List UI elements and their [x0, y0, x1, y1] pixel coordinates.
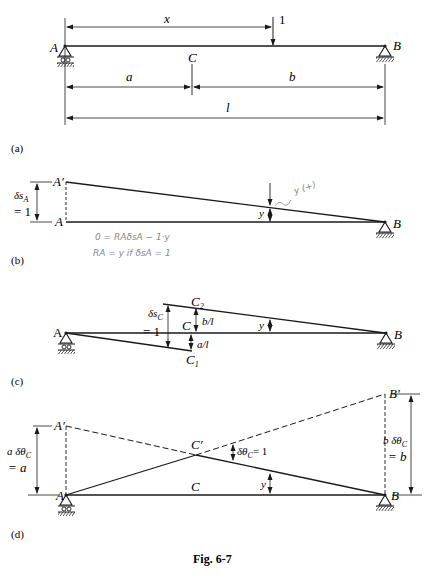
panel-a: A B C 1 x a b l (a)	[11, 11, 401, 155]
label-b: B	[394, 327, 402, 342]
label-a: A	[55, 488, 64, 503]
label-c: C	[182, 318, 191, 333]
handwritten-eq1: 0 = RAδsA − 1·y	[95, 232, 171, 242]
disp-label: δsA	[14, 189, 28, 204]
panel-c: δsC = 1 b/l a/l y C2 C C1 A	[11, 294, 402, 388]
label-a-prime: A′	[52, 174, 64, 189]
dim-l: l	[226, 100, 230, 115]
dim-x: x	[163, 11, 170, 26]
disp-eq: = 1	[143, 324, 160, 339]
dim-a: a	[126, 69, 133, 84]
influence-line	[66, 182, 385, 222]
dim-b: b	[289, 69, 296, 84]
right-eq: = b	[388, 449, 407, 464]
label-c1: C1	[186, 352, 199, 369]
ordinate-y: y	[258, 319, 264, 331]
influence-line-figure: A B C 1 x a b l (a) A′ A δsA = 1	[0, 0, 430, 577]
lower-ordinate: a/l	[197, 338, 209, 350]
figure-caption: Fig. 6-7	[193, 552, 232, 566]
influence-line-left	[66, 333, 192, 351]
label-c-prime: C′	[191, 437, 203, 452]
right-label: b δθC	[383, 434, 408, 449]
roller-support-icon	[57, 44, 74, 67]
handwritten-eq2: RA = y if δsA = 1	[93, 248, 171, 258]
influence-line-left	[66, 455, 196, 495]
label-a: A	[54, 214, 63, 229]
label-b: B	[393, 216, 401, 231]
panel-tag-c: (c)	[11, 375, 24, 388]
ordinate-y: y	[258, 207, 264, 219]
influence-line-right	[196, 455, 385, 495]
panel-d: A′ a δθC = a B′ b δθC = b δθC= 1 y C′ C …	[7, 386, 422, 541]
rotation-label: δθC= 1	[237, 445, 267, 460]
label-c: C	[188, 50, 197, 65]
label-b: B	[393, 38, 401, 53]
label-a-prime: A′	[53, 418, 65, 433]
label-b-prime: B′	[389, 386, 400, 401]
disp-eq: = 1	[14, 204, 31, 219]
upper-ordinate: b/l	[202, 315, 214, 327]
label-a: A	[49, 40, 58, 55]
left-eq: = a	[8, 460, 27, 475]
pin-support-icon	[377, 331, 395, 349]
panel-tag-b: (b)	[11, 254, 24, 267]
ordinate-y: y	[260, 478, 266, 490]
label-c: C	[191, 479, 200, 494]
label-c2: C2	[191, 294, 204, 311]
label-b: B	[391, 488, 399, 503]
load-value: 1	[279, 12, 286, 27]
panel-tag-a: (a)	[11, 142, 24, 155]
label-a: A	[53, 325, 63, 340]
panel-tag-d: (d)	[11, 528, 24, 541]
pin-support-icon	[376, 220, 394, 238]
handwritten-note: y (+)	[292, 179, 318, 196]
left-label: a δθC	[7, 445, 32, 460]
panel-b: A′ A δsA = 1 y B y (+) 0 = RAδsA − 1·y R…	[11, 174, 401, 267]
disp-label: δsC	[148, 307, 163, 322]
pin-support-icon	[376, 44, 394, 62]
